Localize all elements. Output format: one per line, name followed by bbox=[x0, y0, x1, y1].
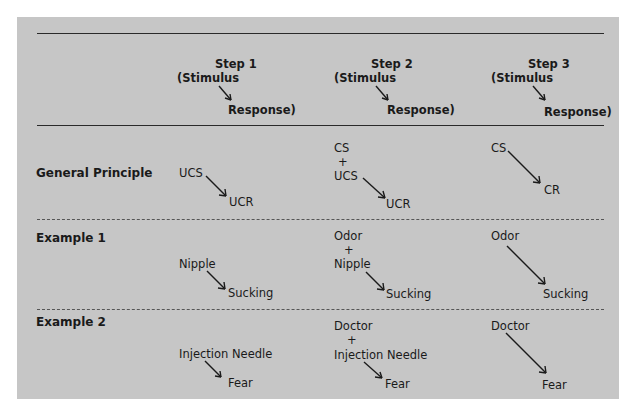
gp-step3-stimulus: CS bbox=[491, 142, 506, 155]
header-rule bbox=[37, 125, 604, 126]
arrow-icon bbox=[204, 360, 224, 380]
gp-step2-response: UCR bbox=[386, 198, 410, 211]
arrow-icon bbox=[218, 85, 234, 103]
gp-step2-stimulus-a: CS bbox=[334, 142, 349, 155]
step3-stimulus-label: (Stimulus bbox=[491, 72, 553, 85]
gp-step3-response: CR bbox=[544, 184, 560, 197]
gp-step2-plus: + bbox=[338, 156, 348, 169]
step2-stimulus-label: (Stimulus bbox=[334, 72, 396, 85]
ex2-step1-stimulus: Injection Needle bbox=[179, 348, 272, 361]
arrow-icon bbox=[363, 361, 385, 381]
ex1-step3-stimulus: Odor bbox=[491, 230, 519, 243]
step1-title: Step 1 bbox=[215, 58, 257, 71]
row-label-example-1: Example 1 bbox=[36, 232, 106, 245]
arrow-icon bbox=[206, 270, 228, 292]
top-rule bbox=[37, 33, 604, 34]
row-divider-1 bbox=[37, 219, 604, 220]
step3-title: Step 3 bbox=[528, 58, 570, 71]
row-label-example-2: Example 2 bbox=[36, 316, 106, 329]
ex1-step2-response: Sucking bbox=[386, 288, 431, 301]
step2-response-label: Response) bbox=[387, 104, 455, 117]
arrow-icon bbox=[505, 332, 549, 376]
arrow-icon bbox=[506, 245, 548, 287]
arrow-icon bbox=[375, 85, 391, 103]
ex1-step2-stimulus-a: Odor bbox=[334, 230, 362, 243]
gp-step2-stimulus-b: UCS bbox=[334, 170, 358, 183]
ex2-step2-stimulus-a: Doctor bbox=[334, 320, 373, 333]
ex2-step2-plus: + bbox=[347, 334, 357, 347]
gp-step1-stimulus: UCS bbox=[179, 167, 203, 180]
step1-response-label: Response) bbox=[228, 104, 296, 117]
ex2-step1-response: Fear bbox=[228, 377, 253, 390]
ex1-step1-response: Sucking bbox=[228, 287, 273, 300]
row-label-general-principle: General Principle bbox=[36, 167, 152, 180]
arrow-icon bbox=[362, 177, 388, 201]
arrow-icon bbox=[365, 271, 387, 293]
ex1-step2-plus: + bbox=[344, 244, 354, 257]
row-divider-2 bbox=[37, 309, 604, 310]
ex1-step3-response: Sucking bbox=[543, 288, 588, 301]
ex2-step2-response: Fear bbox=[385, 378, 410, 391]
ex1-step2-stimulus-b: Nipple bbox=[334, 258, 371, 271]
ex2-step3-response: Fear bbox=[542, 379, 567, 392]
gp-step1-response: UCR bbox=[229, 196, 253, 209]
arrow-icon bbox=[507, 150, 543, 186]
step1-stimulus-label: (Stimulus bbox=[177, 72, 239, 85]
arrow-icon bbox=[205, 175, 229, 199]
arrow-icon bbox=[532, 85, 548, 103]
step2-title: Step 2 bbox=[371, 58, 413, 71]
step3-response-label: Response) bbox=[544, 106, 612, 119]
